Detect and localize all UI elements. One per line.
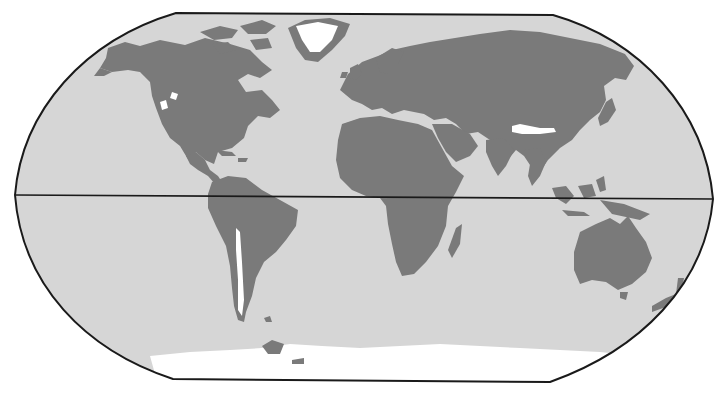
world-map-svg (0, 0, 725, 399)
world-map (0, 0, 725, 399)
